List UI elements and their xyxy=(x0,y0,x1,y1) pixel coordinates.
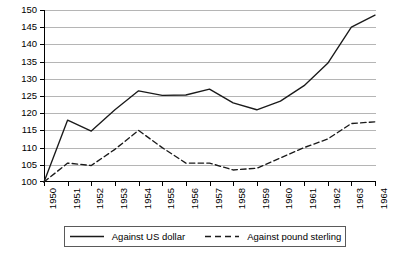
y-tick-label: 105 xyxy=(21,160,37,170)
x-tick-label: 1963 xyxy=(355,188,365,209)
x-tick-mark xyxy=(351,182,352,186)
x-tick-mark xyxy=(328,182,329,186)
x-tick-label: 1961 xyxy=(308,188,318,209)
x-tick-mark xyxy=(280,182,281,186)
x-tick-label: 1953 xyxy=(119,188,129,209)
x-tick-label: 1952 xyxy=(95,188,105,209)
x-tick-label: 1954 xyxy=(143,188,153,209)
x-tick-label: 1962 xyxy=(332,188,342,209)
x-tick-label: 1958 xyxy=(237,188,247,209)
x-tick-mark xyxy=(91,182,92,186)
x-tick-mark xyxy=(375,182,376,186)
y-tick-label: 120 xyxy=(21,108,37,118)
x-tick-mark xyxy=(162,182,163,186)
series-line-against-pound-sterling xyxy=(44,122,375,182)
x-tick-mark xyxy=(304,182,305,186)
x-tick-label: 1955 xyxy=(166,188,176,209)
x-tick-label: 1964 xyxy=(379,188,389,209)
x-tick-label: 1960 xyxy=(284,188,294,209)
y-tick-label: 140 xyxy=(21,40,37,50)
legend-entry-against-pound-sterling: Against pound sterling xyxy=(204,232,341,242)
y-tick-label: 115 xyxy=(22,126,37,136)
x-tick-label: 1956 xyxy=(190,188,200,209)
x-tick-mark xyxy=(233,182,234,186)
x-tick-mark xyxy=(186,182,187,186)
series-line-against-us-dollar xyxy=(44,15,375,182)
chart-legend: Against US dollar Against pound sterling xyxy=(64,226,346,247)
series-layer xyxy=(44,10,376,182)
x-tick-mark xyxy=(210,182,211,186)
dashed-line-swatch-icon xyxy=(204,232,240,241)
y-tick-label: 135 xyxy=(21,57,37,67)
x-tick-label: 1957 xyxy=(214,188,224,209)
x-tick-mark xyxy=(139,182,140,186)
y-axis: 100105110115120125130135140145150 xyxy=(0,10,44,182)
line-chart-figure: 100105110115120125130135140145150 195019… xyxy=(0,0,396,254)
x-tick-mark xyxy=(257,182,258,186)
y-tick-label: 110 xyxy=(22,143,37,153)
x-tick-label: 1951 xyxy=(72,188,82,209)
x-tick-mark xyxy=(44,182,45,186)
legend-entry-against-us-dollar: Against US dollar xyxy=(69,232,185,242)
x-tick-label: 1959 xyxy=(261,188,271,209)
y-tick-label: 100 xyxy=(21,177,37,187)
x-tick-mark xyxy=(115,182,116,186)
y-tick-label: 150 xyxy=(21,5,37,15)
legend-label-against-pound-sterling: Against pound sterling xyxy=(247,232,341,242)
x-tick-mark xyxy=(68,182,69,186)
y-tick-label: 145 xyxy=(21,22,37,32)
x-tick-label: 1950 xyxy=(48,188,58,209)
y-tick-label: 125 xyxy=(21,91,37,101)
legend-label-against-us-dollar: Against US dollar xyxy=(112,232,185,242)
solid-line-swatch-icon xyxy=(69,232,105,241)
y-tick-label: 130 xyxy=(21,74,37,84)
x-axis: 1950195119521953195419551956195719581959… xyxy=(44,182,376,222)
